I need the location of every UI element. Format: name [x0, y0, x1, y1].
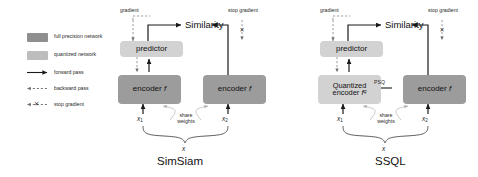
legend-label-quantized: quantized network: [54, 51, 96, 57]
ssql-predictor-encoder-link: [337, 57, 349, 72]
legend-label-forward-pass: forward pass: [54, 69, 84, 75]
simsiam-predictor-to-similarity-arrow: [148, 25, 181, 41]
ssql-encoder-right-symbol: f: [449, 84, 451, 93]
ssql-encoder-right-box: encoder f: [403, 75, 466, 104]
simsiam-encoder-right-box: encoder f: [203, 75, 266, 104]
ssql-input-x2-label: x2: [422, 115, 428, 123]
ssql-quantized-encoder-superscript: q: [363, 88, 366, 94]
legend-label-full-precision: full precision network: [54, 33, 102, 39]
ssql-source-x-label: x: [382, 145, 385, 152]
simsiam-augmentation-brace: [143, 126, 228, 143]
simsiam-source-x-label: x: [182, 145, 185, 152]
simsiam-predictor-text: predictor: [136, 45, 167, 53]
ssql-encoder-right-text: encoder f: [418, 85, 451, 93]
ssql-psq-label: PSQ: [374, 79, 385, 85]
simsiam-encoder-right-symbol: f: [249, 84, 251, 93]
legend-swatch-full-precision: [27, 33, 48, 42]
legend-label-stop-gradient: stop gradient: [54, 101, 84, 107]
ssql-predictor-to-similarity-arrow: [348, 25, 381, 41]
ssql-caption: SSQL: [375, 155, 406, 167]
legend-swatch-quantized: [27, 51, 48, 60]
simsiam-share-weights-label: share weights: [173, 112, 199, 124]
simsiam-encoder-left-symbol: f: [164, 84, 166, 93]
ssql-stop-gradient-x-icon: ✕: [440, 26, 445, 33]
simsiam-input-x2-label: x2: [222, 115, 228, 123]
simsiam-encoder-left-box: encoder f: [118, 75, 181, 104]
legend-stop-gradient-x-icon: ✕: [34, 100, 39, 107]
simsiam-encoder-right-text: encoder f: [218, 85, 251, 93]
simsiam-predictor-encoder-link: [137, 57, 149, 72]
simsiam-caption: SimSiam: [157, 155, 203, 167]
ssql-predictor-text: predictor: [336, 45, 367, 53]
ssql-augmentation-brace: [343, 126, 428, 143]
ssql-predictor-box: predictor: [320, 41, 383, 57]
ssql-input-x1-label: x1: [337, 115, 343, 123]
figure-canvas: full precision network quantized network…: [0, 0, 478, 177]
ssql-gradient-label: gradient: [320, 7, 339, 13]
ssql-stop-gradient-label: stop gradient: [428, 7, 458, 13]
simsiam-encoder-left-text: encoder f: [133, 85, 166, 93]
ssql-encoder-to-similarity-arrow: [412, 25, 428, 76]
simsiam-similarity-label: Similarity: [185, 19, 224, 30]
simsiam-stop-gradient-x-icon: ✕: [240, 26, 245, 33]
simsiam-predictor-box: predictor: [120, 41, 183, 57]
ssql-similarity-label: Similarity: [385, 19, 424, 30]
simsiam-stop-gradient-label: stop gradient: [228, 7, 258, 13]
legend-label-backward-pass: backward pass: [54, 85, 89, 91]
simsiam-encoder-to-similarity-arrow: [212, 25, 228, 76]
simsiam-input-x1-label: x1: [137, 115, 143, 123]
ssql-quantized-encoder-line2: encoder fq: [333, 89, 367, 97]
ssql-quantized-encoder-box: Quantized encoder fq: [318, 75, 381, 104]
ssql-share-weights-label: share weights: [373, 112, 399, 124]
simsiam-gradient-label: gradient: [120, 7, 139, 13]
